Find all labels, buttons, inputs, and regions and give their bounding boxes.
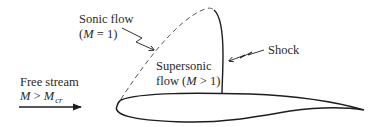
airfoil-shape	[116, 93, 364, 122]
free-stream-mach-label: M > Mcr	[19, 89, 63, 105]
supersonic-mach-label: flow (M > 1)	[156, 74, 220, 88]
supersonic-label: Supersonic	[156, 59, 212, 73]
shock-label: Shock	[268, 43, 300, 57]
airfoil-diagram: Sonic flow (M = 1) Shock Supersonic flow…	[0, 0, 383, 127]
sonic-flow-label: Sonic flow	[79, 12, 134, 26]
sonic-flow-leader-arrow	[122, 28, 154, 50]
shock-leader-arrow	[229, 50, 264, 61]
sonic-flow-mach-label: (M = 1)	[79, 27, 117, 41]
free-stream-label: Free stream	[20, 75, 79, 89]
